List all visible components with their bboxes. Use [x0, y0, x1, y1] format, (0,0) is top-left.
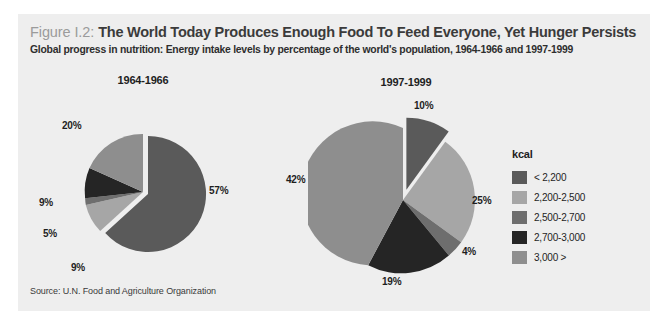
pie-title-right: 1997-1999 — [356, 76, 456, 88]
legend-swatch-3000-plus — [512, 251, 527, 264]
legend: kcal < 2,200 2,200-2,500 2,500-2,700 2,7… — [512, 148, 585, 267]
pie-label-25-right: 25% — [472, 195, 491, 206]
legend-swatch-2700-3000 — [512, 231, 527, 244]
legend-item-2200-2500: 2,200-2,500 — [512, 187, 585, 207]
legend-label-3000-plus: 3,000 > — [534, 252, 566, 263]
pie-label-4-right: 4% — [462, 246, 476, 257]
legend-label-under-2200: < 2,200 — [534, 172, 566, 183]
pie-slice-group-right — [308, 118, 475, 274]
pie-chart-1997-1999: 1997-1999 10% 25% 4% 19% 42% — [288, 14, 518, 289]
pie-svg-right — [308, 96, 508, 286]
legend-item-2500-2700: 2,500-2,700 — [512, 207, 585, 227]
legend-swatch-2200-2500 — [512, 191, 527, 204]
legend-label-2700-3000: 2,700-3,000 — [534, 232, 585, 243]
source-note: Source: U.N. Food and Agriculture Organi… — [30, 286, 216, 296]
pie-label-5-left: 5% — [43, 228, 57, 239]
legend-label-2500-2700: 2,500-2,700 — [534, 212, 585, 223]
pie-svg-left — [73, 94, 253, 269]
pie-label-10-right: 10% — [414, 100, 433, 111]
pie-label-20-left: 20% — [62, 120, 81, 131]
legend-swatch-under-2200 — [512, 171, 527, 184]
legend-item-2700-3000: 2,700-3,000 — [512, 227, 585, 247]
pie-chart-1964-1966: 1964-1966 57% 9% 5% 9% 20% — [18, 14, 308, 284]
pie-slice-group-left — [85, 134, 206, 252]
legend-title: kcal — [512, 148, 585, 160]
pie-title-left: 1964-1966 — [93, 74, 193, 86]
pie-label-42-right: 42% — [286, 174, 305, 185]
pie-label-57-left: 57% — [209, 185, 228, 196]
legend-item-under-2200: < 2,200 — [512, 167, 585, 187]
pie-label-19-right: 19% — [382, 276, 401, 287]
figure-panel: Figure I.2: The World Today Produces Eno… — [18, 14, 650, 311]
legend-label-2200-2500: 2,200-2,500 — [534, 192, 585, 203]
legend-item-3000-plus: 3,000 > — [512, 247, 585, 267]
pie-label-9a-left: 9% — [71, 262, 85, 273]
legend-swatch-2500-2700 — [512, 211, 527, 224]
pie-label-9b-left: 9% — [39, 197, 53, 208]
